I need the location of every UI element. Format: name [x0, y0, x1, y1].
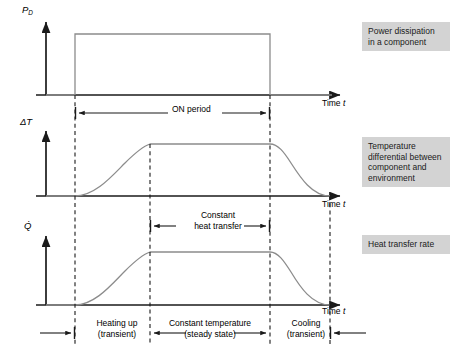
plot-power-dissipation [36, 22, 340, 95]
annotation-temperature-differential: Temperature differential between compone… [362, 137, 450, 187]
plot-temperature-differential [36, 131, 340, 196]
temperature-curve [46, 144, 330, 196]
phase-label-steady-state: Constant temperature (steady state) [156, 318, 264, 339]
temperature-axis-label: ΔT [20, 117, 32, 128]
on-period-label: ON period [172, 104, 211, 115]
power-pulse-curve [46, 34, 332, 95]
annotation-heat-transfer-rate: Heat transfer rate [362, 235, 450, 254]
annotation-power-dissipation: Power dissipation in a component [362, 22, 450, 51]
phase-label-cooling: Cooling (transient) [278, 318, 334, 339]
power-time-label: Time t [322, 98, 345, 109]
power-axis-label: PD [22, 5, 33, 17]
constant-heat-transfer-label: Constant heat transfer [180, 210, 256, 231]
phase-label-heating: Heating up (transient) [84, 318, 150, 339]
plot-heat-transfer-rate [36, 236, 340, 305]
heat-time-label: Time t [322, 306, 345, 317]
temperature-time-label: Time t [322, 199, 345, 210]
heat-axis-label: Q̇ [24, 221, 31, 232]
heat-curve [46, 252, 330, 305]
